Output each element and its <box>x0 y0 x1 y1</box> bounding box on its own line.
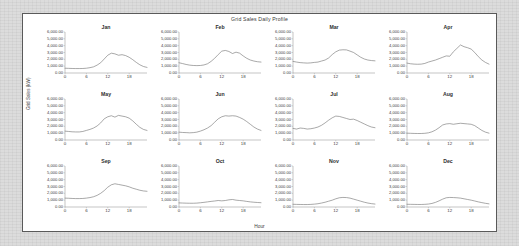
x-tick-label: 6 <box>199 142 201 146</box>
x-tick-label: 0 <box>64 209 66 213</box>
x-tick-label: 18 <box>127 142 132 146</box>
panel-title-oct: Oct <box>177 158 263 164</box>
x-axis-ticks: 061218 <box>65 209 147 217</box>
plot-area-mar <box>293 32 375 73</box>
chart-title: Grid Sales Daily Profile <box>23 16 496 22</box>
x-tick-label: 18 <box>127 209 132 213</box>
x-tick-label: 0 <box>178 209 180 213</box>
plot-area-nov <box>293 166 375 207</box>
x-tick-label: 0 <box>64 75 66 79</box>
y-tick-label: 0.00 <box>283 71 291 75</box>
x-axis-ticks: 061218 <box>407 209 489 217</box>
y-tick-label: 1,000.00 <box>275 64 291 68</box>
y-tick-label: 6,000.00 <box>275 30 291 34</box>
y-tick-label: 0.00 <box>283 205 291 209</box>
x-axis-ticks: 061218 <box>179 142 261 150</box>
series-line-apr <box>407 45 489 64</box>
series-line-jun <box>179 116 261 133</box>
chart-card: Grid Sales Daily Profile Grid Sales (kW)… <box>22 13 497 232</box>
y-tick-label: 3,000.00 <box>161 185 177 189</box>
y-tick-label: 6,000.00 <box>275 97 291 101</box>
y-tick-label: 0.00 <box>55 138 63 142</box>
y-tick-label: 3,000.00 <box>275 51 291 55</box>
x-axis-ticks: 061218 <box>179 209 261 217</box>
x-tick-label: 12 <box>333 142 338 146</box>
y-tick-label: 3,000.00 <box>275 118 291 122</box>
panel-title-dec: Dec <box>405 158 491 164</box>
x-axis-ticks: 061218 <box>293 75 375 83</box>
y-tick-label: 1,000.00 <box>47 64 63 68</box>
panel-title-sep: Sep <box>63 158 149 164</box>
y-tick-label: 0.00 <box>169 138 177 142</box>
panel-title-nov: Nov <box>291 158 377 164</box>
y-axis-ticks: 6,000.005,000.004,000.003,000.002,000.00… <box>379 163 405 210</box>
y-tick-label: 5,000.00 <box>275 104 291 108</box>
y-tick-label: 5,000.00 <box>161 104 177 108</box>
y-tick-label: 0.00 <box>55 71 63 75</box>
plot-area-aug <box>407 99 489 140</box>
y-tick-label: 6,000.00 <box>47 97 63 101</box>
x-tick-label: 18 <box>355 142 360 146</box>
series-line-dec <box>407 197 489 204</box>
y-tick-label: 2,000.00 <box>47 124 63 128</box>
plot-area-jan <box>65 32 147 73</box>
x-tick-label: 6 <box>313 75 315 79</box>
y-tick-label: 5,000.00 <box>389 171 405 175</box>
y-axis-ticks: 6,000.005,000.004,000.003,000.002,000.00… <box>151 96 177 143</box>
panel-title-feb: Feb <box>177 24 263 30</box>
x-tick-label: 12 <box>105 209 110 213</box>
panel-jun: Jun6,000.005,000.004,000.003,000.002,000… <box>151 91 265 155</box>
x-tick-label: 0 <box>178 142 180 146</box>
y-tick-label: 2,000.00 <box>161 124 177 128</box>
y-axis-ticks: 6,000.005,000.004,000.003,000.002,000.00… <box>379 96 405 143</box>
panel-aug: Aug6,000.005,000.004,000.003,000.002,000… <box>379 91 493 155</box>
y-tick-label: 2,000.00 <box>161 57 177 61</box>
x-tick-label: 18 <box>241 209 246 213</box>
y-tick-label: 3,000.00 <box>389 51 405 55</box>
y-tick-label: 6,000.00 <box>47 30 63 34</box>
small-multiples-grid: Jan6,000.005,000.004,000.003,000.002,000… <box>37 24 495 224</box>
y-tick-label: 6,000.00 <box>161 97 177 101</box>
y-tick-label: 3,000.00 <box>47 51 63 55</box>
y-tick-label: 4,000.00 <box>47 111 63 115</box>
y-tick-label: 1,000.00 <box>275 131 291 135</box>
y-tick-label: 3,000.00 <box>389 118 405 122</box>
plot-area-sep <box>65 166 147 207</box>
panel-feb: Feb6,000.005,000.004,000.003,000.002,000… <box>151 24 265 88</box>
y-tick-label: 0.00 <box>55 205 63 209</box>
plot-area-dec <box>407 166 489 207</box>
plot-area-oct <box>179 166 261 207</box>
x-axis-ticks: 061218 <box>65 75 147 83</box>
panel-sep: Sep6,000.005,000.004,000.003,000.002,000… <box>37 158 151 222</box>
y-tick-label: 2,000.00 <box>275 124 291 128</box>
y-tick-label: 3,000.00 <box>275 185 291 189</box>
y-tick-label: 4,000.00 <box>389 44 405 48</box>
x-tick-label: 0 <box>292 209 294 213</box>
x-tick-label: 6 <box>85 75 87 79</box>
y-tick-label: 1,000.00 <box>47 198 63 202</box>
x-axis-title: Hour <box>23 224 496 229</box>
x-tick-label: 0 <box>406 142 408 146</box>
y-tick-label: 4,000.00 <box>275 44 291 48</box>
y-tick-label: 2,000.00 <box>389 191 405 195</box>
y-tick-label: 2,000.00 <box>275 57 291 61</box>
panel-oct: Oct6,000.005,000.004,000.003,000.002,000… <box>151 158 265 222</box>
y-axis-ticks: 6,000.005,000.004,000.003,000.002,000.00… <box>379 29 405 76</box>
y-tick-label: 1,000.00 <box>161 198 177 202</box>
x-tick-label: 18 <box>127 75 132 79</box>
x-tick-label: 18 <box>241 75 246 79</box>
x-tick-label: 12 <box>105 142 110 146</box>
panel-apr: Apr6,000.005,000.004,000.003,000.002,000… <box>379 24 493 88</box>
x-tick-label: 6 <box>313 142 315 146</box>
y-tick-label: 5,000.00 <box>389 104 405 108</box>
panel-may: May6,000.005,000.004,000.003,000.002,000… <box>37 91 151 155</box>
x-tick-label: 12 <box>447 142 452 146</box>
x-tick-label: 12 <box>219 75 224 79</box>
y-tick-label: 2,000.00 <box>47 191 63 195</box>
x-tick-label: 18 <box>469 209 474 213</box>
y-tick-label: 1,000.00 <box>389 131 405 135</box>
y-tick-label: 2,000.00 <box>161 191 177 195</box>
x-tick-label: 0 <box>292 142 294 146</box>
panel-title-jan: Jan <box>63 24 149 30</box>
series-line-jul <box>293 116 375 129</box>
